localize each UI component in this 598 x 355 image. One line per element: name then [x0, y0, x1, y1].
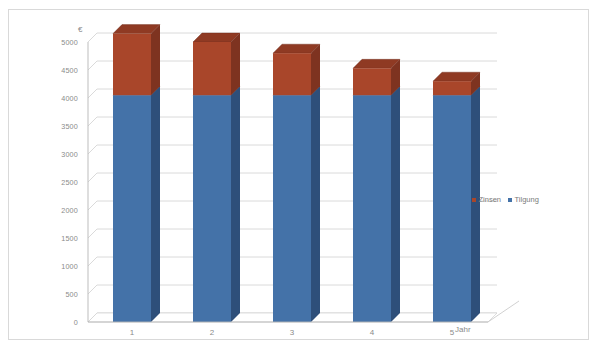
y-tick-label: 2500 [40, 178, 78, 187]
bar-segment [193, 33, 240, 95]
legend-label: Tilgung [515, 195, 539, 204]
bar-segment [353, 59, 400, 95]
x-category-label: 1 [99, 328, 165, 337]
y-tick-label: 1000 [40, 262, 78, 271]
y-tick-label: 3500 [40, 122, 78, 131]
y-tick-label: 4500 [40, 66, 78, 75]
bar-segment [433, 72, 480, 95]
x-category-label: 5 [419, 328, 485, 337]
y-tick-label: 4000 [40, 94, 78, 103]
y-tick-label: 1500 [40, 234, 78, 243]
x-category-label: 2 [179, 328, 245, 337]
y-tick-label: 3000 [40, 150, 78, 159]
bar-segment [113, 25, 160, 96]
legend-item: Tilgung [508, 195, 539, 204]
y-tick-label: 2000 [40, 206, 78, 215]
bar-segment [353, 86, 400, 322]
legend-swatch-icon [508, 198, 512, 202]
legend-swatch-icon [472, 198, 476, 202]
x-category-label: 3 [259, 328, 325, 337]
chart-plot-area [0, 0, 598, 355]
y-tick-label: 0 [40, 318, 78, 327]
legend-item: Zinsen [472, 195, 501, 204]
bar-segment [273, 44, 320, 95]
chart-legend: ZinsenTilgung [472, 195, 539, 204]
x-category-label: 4 [339, 328, 405, 337]
bar-segment [273, 86, 320, 322]
y-axis-unit-label: € [78, 25, 82, 34]
y-tick-label: 500 [40, 290, 78, 299]
legend-label: Zinsen [479, 195, 502, 204]
bar-segment [113, 86, 160, 322]
bar-segment [193, 86, 240, 322]
bar-segment [433, 86, 480, 322]
y-tick-label: 5000 [40, 38, 78, 47]
